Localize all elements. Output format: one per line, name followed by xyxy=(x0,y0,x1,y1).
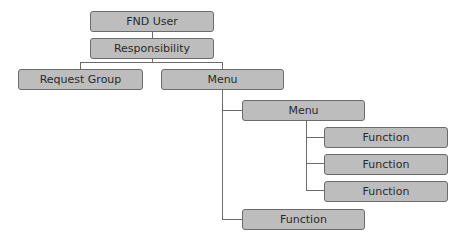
node-request-group: Request Group xyxy=(18,69,143,90)
connector-to-menu-2 xyxy=(222,110,242,111)
connector-to-function-3 xyxy=(306,190,324,191)
node-label: Menu xyxy=(288,104,318,117)
node-label: Responsibility xyxy=(114,42,190,55)
node-label: Request Group xyxy=(40,73,122,86)
node-label: Function xyxy=(363,185,410,198)
node-label: Function xyxy=(363,158,410,171)
connector-to-function-1 xyxy=(306,137,324,138)
node-label: FND User xyxy=(126,15,178,28)
connector-to-function-2 xyxy=(306,163,324,164)
node-label: Function xyxy=(363,131,410,144)
node-label: Function xyxy=(280,213,327,226)
node-label: Menu xyxy=(207,73,237,86)
hierarchy-diagram: FND User Responsibility Request Group Me… xyxy=(0,0,463,241)
node-fnd-user: FND User xyxy=(90,11,214,32)
connector-to-menu-1 xyxy=(222,62,223,69)
node-responsibility: Responsibility xyxy=(90,38,214,59)
connector-menu-2-trunk xyxy=(306,120,307,191)
node-function-3: Function xyxy=(324,181,448,202)
connector-responsibility-branch xyxy=(80,62,223,63)
node-menu-1: Menu xyxy=(161,69,284,90)
node-function-4: Function xyxy=(242,209,365,230)
node-function-2: Function xyxy=(324,154,448,175)
node-function-1: Function xyxy=(324,127,448,148)
connector-to-function-4 xyxy=(222,219,242,220)
node-menu-2: Menu xyxy=(242,100,365,121)
connector-to-request-group xyxy=(80,62,81,69)
